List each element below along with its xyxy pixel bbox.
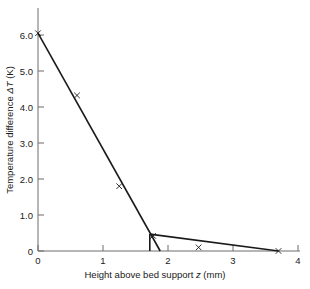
x-tick-label-3: 3	[230, 255, 235, 266]
shallow-region-fit-line	[150, 234, 279, 251]
x-axis-title: Height above bed support z (mm)	[85, 269, 226, 280]
axes-group	[38, 8, 300, 251]
x-tick-label-4: 4	[295, 255, 300, 266]
data-marker	[116, 183, 122, 189]
y-tick-labels: 0 1.0 2.0 3.0 4.0 5.0 6.0	[20, 30, 33, 257]
x-tick-labels: 0 1 2 3 4	[35, 255, 300, 266]
x-tick-label-0: 0	[35, 255, 40, 266]
y-tick-label-6: 6.0	[20, 30, 33, 41]
data-markers-group	[35, 30, 281, 253]
steep-region-fit-line	[38, 33, 160, 251]
y-axis-title: Temperature difference ΔT (K)	[4, 66, 15, 194]
data-lines-group	[38, 33, 279, 251]
x-tick-label-1: 1	[100, 255, 105, 266]
y-tick-label-4: 4.0	[20, 102, 33, 113]
y-tick-label-1: 1.0	[20, 210, 33, 221]
y-tick-label-0: 0	[28, 246, 33, 257]
x-tick-label-2: 2	[165, 255, 170, 266]
chart-figure: 0 1.0 2.0 3.0 4.0 5.0 6.0 0 1 2 3 4	[0, 0, 310, 289]
y-tick-label-5: 5.0	[20, 66, 33, 77]
data-marker	[74, 93, 80, 99]
y-tick-label-2: 2.0	[20, 174, 33, 185]
x-axis-title-post: (mm)	[201, 269, 226, 280]
y-tick-label-3: 3.0	[20, 138, 33, 149]
y-axis-title-pre: Temperature difference	[4, 94, 15, 194]
x-axis-title-pre: Height above bed support	[85, 269, 196, 280]
data-marker	[196, 245, 202, 251]
y-tick-group	[38, 35, 44, 251]
chart-svg: 0 1.0 2.0 3.0 4.0 5.0 6.0 0 1 2 3 4	[0, 0, 310, 289]
y-axis-title-post: (K)	[4, 66, 15, 81]
